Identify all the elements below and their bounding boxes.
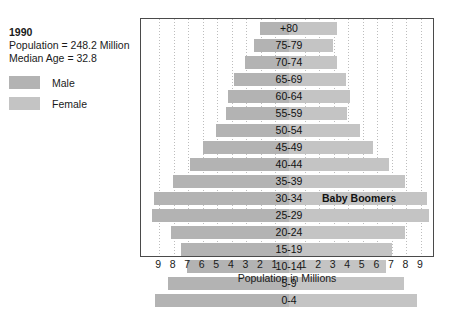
- pyramid-row: 0-4: [140, 292, 434, 309]
- age-group-label: 35-39: [260, 173, 318, 190]
- pyramid-row: 40-44: [140, 156, 434, 173]
- age-group-label: 15-19: [260, 241, 318, 258]
- pyramid-row: 65-69: [140, 71, 434, 88]
- pyramid-row: 45-49: [140, 139, 434, 156]
- age-group-label: 45-49: [260, 139, 318, 156]
- age-group-label: 60-64: [260, 88, 318, 105]
- pyramid-row: 35-39: [140, 173, 434, 190]
- x-tick-label-right-3: 3: [326, 258, 340, 270]
- age-group-label: 75-79: [260, 37, 318, 54]
- median-age-line: Median Age = 32.8: [9, 52, 139, 65]
- x-tick-label-left-7: 7: [180, 258, 194, 270]
- age-group-label: 25-29: [260, 207, 318, 224]
- legend: Male Female: [9, 74, 139, 112]
- pyramid-row: 50-54: [140, 122, 434, 139]
- bars-layer: +8075-7970-7465-6960-6455-5950-5445-4940…: [140, 18, 434, 257]
- pyramid-row: 70-74: [140, 54, 434, 71]
- x-tick-label-right-4: 4: [340, 258, 354, 270]
- x-tick-label-left-6: 6: [195, 258, 209, 270]
- male-color-swatch: [9, 76, 40, 89]
- pyramid-row: 75-79: [140, 37, 434, 54]
- x-tick-label-left-9: 9: [151, 258, 165, 270]
- age-group-label: 65-69: [260, 71, 318, 88]
- age-group-label: 0-4: [260, 292, 318, 309]
- age-group-label: 10-14: [260, 258, 318, 275]
- x-tick-label-right-7: 7: [384, 258, 398, 270]
- x-tick-label-right-6: 6: [369, 258, 383, 270]
- legend-label-female: Female: [52, 98, 87, 110]
- x-tick-label-left-3: 3: [238, 258, 252, 270]
- pyramid-row: 25-29: [140, 207, 434, 224]
- x-tick-label-right-8: 8: [398, 258, 412, 270]
- x-tick-label-left-5: 5: [209, 258, 223, 270]
- pyramid-row: 15-19: [140, 241, 434, 258]
- age-group-label: 20-24: [260, 224, 318, 241]
- age-group-label: 70-74: [260, 54, 318, 71]
- pyramid-row: +80: [140, 20, 434, 37]
- x-tick-label-left-8: 8: [166, 258, 180, 270]
- female-color-swatch: [9, 97, 40, 110]
- year-label: 1990: [9, 26, 139, 39]
- pyramid-row: 60-64: [140, 88, 434, 105]
- legend-item-male: Male: [9, 74, 139, 91]
- x-tick-label-right-5: 5: [355, 258, 369, 270]
- baby-boomers-annotation: Baby Boomers: [322, 190, 396, 207]
- age-group-label: 40-44: [260, 156, 318, 173]
- population-line: Population = 248.2 Million: [9, 39, 139, 52]
- chart-info-block: 1990 Population = 248.2 Million Median A…: [9, 26, 139, 116]
- age-group-label: 55-59: [260, 105, 318, 122]
- x-tick-label-right-9: 9: [413, 258, 427, 270]
- age-group-label: 50-54: [260, 122, 318, 139]
- pyramid-row: 20-24: [140, 224, 434, 241]
- pyramid-row: 55-59: [140, 105, 434, 122]
- age-group-label: 30-34: [260, 190, 318, 207]
- age-group-label: +80: [260, 20, 318, 37]
- legend-label-male: Male: [52, 77, 75, 89]
- x-tick-label-left-4: 4: [224, 258, 238, 270]
- age-group-label: 5-9: [260, 275, 318, 292]
- legend-item-female: Female: [9, 95, 139, 112]
